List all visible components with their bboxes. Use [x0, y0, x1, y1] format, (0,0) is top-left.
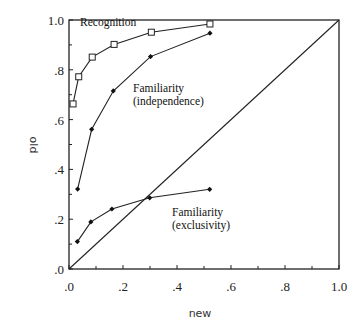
- diamond-marker: [109, 206, 114, 211]
- square-marker: [89, 54, 95, 60]
- diagonal-line: [69, 20, 339, 269]
- y-tick-label: .4: [54, 162, 64, 177]
- square-marker: [207, 21, 213, 27]
- x-tick-label: .0: [64, 279, 74, 294]
- diamond-marker: [207, 187, 212, 192]
- x-tick-label: 1.0: [331, 279, 347, 294]
- x-tick-label: .8: [280, 279, 290, 294]
- square-marker: [148, 29, 154, 35]
- y-tick-label: 1.0: [48, 13, 64, 28]
- x-axis-label: new: [189, 307, 212, 320]
- series-annotation: Recognition: [80, 16, 136, 29]
- x-tick-label: .2: [118, 279, 128, 294]
- y-axis-label: old: [27, 137, 40, 154]
- series-annotation: (exclusivity): [172, 219, 230, 232]
- y-tick-label: .2: [54, 212, 64, 227]
- series-annotations: RecognitionFamiliarity(independence)Fami…: [80, 16, 230, 232]
- series-annotation: Familiarity: [172, 206, 223, 219]
- diamond-marker: [89, 127, 94, 132]
- diamond-marker: [75, 186, 80, 191]
- y-tick-label: .8: [54, 63, 64, 78]
- series-annotation: Familiarity: [133, 82, 184, 95]
- y-tick-label: .6: [54, 113, 64, 128]
- chance-diagonal: [69, 20, 339, 269]
- diamond-marker: [207, 31, 212, 36]
- x-tick-label: .4: [172, 279, 182, 294]
- y-tick-label: .0: [54, 262, 64, 277]
- square-marker: [111, 41, 117, 47]
- series-line: [78, 33, 210, 189]
- roc-chart: .0.2.4.6.81.0.0.2.4.6.81.0 RecognitionFa…: [0, 0, 360, 328]
- series-annotation: (independence): [133, 95, 204, 108]
- square-marker: [76, 74, 82, 80]
- square-marker: [70, 101, 76, 107]
- x-tick-label: .6: [226, 279, 236, 294]
